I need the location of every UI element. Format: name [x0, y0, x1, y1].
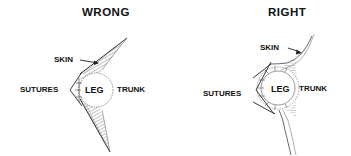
right-suture-illustration — [175, 0, 351, 156]
right-skin-flap-lower — [279, 110, 291, 155]
label-sutures-right: SUTURES — [203, 89, 241, 98]
label-sutures-wrong: SUTURES — [20, 85, 58, 94]
label-leg-wrong: LEG — [85, 85, 104, 95]
panel-wrong: WRONG SKIN SUTURES L — [0, 0, 175, 156]
panel-right: RIGHT — [175, 0, 351, 156]
label-trunk-wrong: TRUNK — [117, 85, 145, 94]
label-skin-right: SKIN — [260, 43, 279, 52]
wrong-skin-line-upper — [80, 38, 127, 74]
label-trunk-right: TRUNK — [299, 84, 327, 93]
label-leg-right: LEG — [271, 84, 290, 94]
wrong-suture-illustration — [0, 0, 175, 156]
label-skin-wrong: SKIN — [54, 55, 73, 64]
